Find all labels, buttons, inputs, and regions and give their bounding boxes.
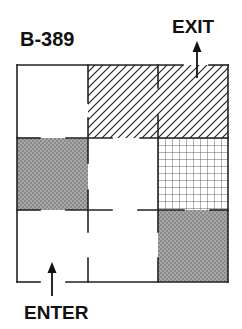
cell-r2c3-square-grid [158, 138, 228, 210]
maze-diagram [0, 0, 242, 329]
cell-fills [17, 65, 228, 282]
cell-r2c1-gray-crosshatch [17, 138, 88, 210]
cell-r1c3-diagonal-hatch [158, 65, 228, 138]
cell-r3c3-gray-crosshatch [158, 210, 228, 282]
cell-r1c2-diagonal-hatch [88, 65, 158, 138]
enter-arrow-icon [48, 262, 57, 296]
